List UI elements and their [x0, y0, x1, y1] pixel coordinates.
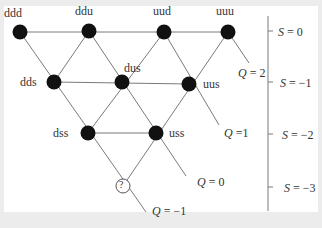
node-uuu [221, 25, 236, 40]
strangeness-label-3: S = −3 [284, 182, 316, 194]
label-dds: dds [20, 76, 37, 88]
label-dss: dss [53, 127, 68, 139]
diag-line-uuu [123, 32, 228, 186]
strangeness-label-1: S = −1 [280, 77, 312, 89]
label-uud: uud [153, 5, 171, 17]
charge-label-q2: Q = 2 [238, 67, 265, 79]
label-uus: uus [203, 78, 220, 90]
strangeness-label-2: S = −2 [282, 129, 314, 141]
charge-label-q1: Q =1 [224, 127, 248, 139]
node-ddd [13, 25, 28, 40]
node-uss [149, 126, 164, 141]
label-ddd: ddd [4, 7, 22, 19]
node-uus [182, 77, 197, 92]
node-dss [81, 126, 96, 141]
node-ddu [82, 24, 97, 39]
label-uuu: uuu [216, 5, 234, 17]
label-uss: uss [169, 127, 184, 139]
charge-label-qm1: Q = −1 [152, 205, 186, 217]
label-ddu: ddu [75, 5, 93, 17]
connection-lines [20, 16, 273, 212]
label-dus: dus [124, 62, 141, 74]
charge-label-q0: Q = 0 [197, 176, 224, 188]
charge-line-q0 [89, 31, 186, 176]
decuplet-diagram [0, 0, 322, 228]
strangeness-label-0: S = 0 [278, 26, 303, 38]
diag-line-ddu [54, 31, 89, 82]
node-dds [47, 75, 62, 90]
label-unknown: ? [119, 180, 123, 190]
node-dus [115, 75, 130, 90]
node-uud [157, 25, 172, 40]
